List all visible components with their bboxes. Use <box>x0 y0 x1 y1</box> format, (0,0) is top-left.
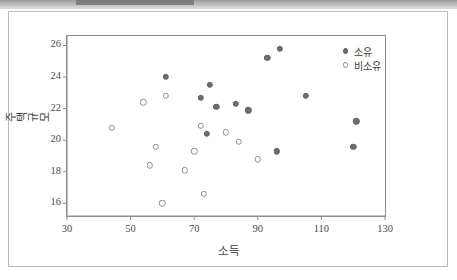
legend-label-owned: 소유 <box>354 44 372 59</box>
x-axis-tick-label: 70 <box>174 223 214 234</box>
y-axis-tick-label: 26 <box>33 38 61 49</box>
scan-top-strip-edge <box>0 7 457 9</box>
x-axis-tick-label: 30 <box>47 223 87 234</box>
x-axis-tick-label: 90 <box>238 223 278 234</box>
x-axis-tick-label: 130 <box>365 223 405 234</box>
y-axis-tick-label: 20 <box>33 133 61 144</box>
legend-item-owned[interactable]: 소유 <box>340 45 381 57</box>
legend-item-not-owned[interactable]: 비소유 <box>340 59 381 71</box>
x-axis-title: 소득 <box>0 242 457 258</box>
filled-circle-icon <box>340 48 351 54</box>
y-axis-tick-label: 22 <box>33 102 61 113</box>
legend-label-not-owned: 비소유 <box>354 58 381 73</box>
open-circle-icon <box>340 62 351 68</box>
scan-top-strip-tab <box>76 0 194 5</box>
chart-legend: 소유 비소유 <box>340 45 381 73</box>
x-axis-tick-label: 50 <box>111 223 151 234</box>
x-axis-tick-label: 110 <box>301 223 341 234</box>
y-axis-tick-label: 18 <box>33 165 61 176</box>
y-axis-tick-label: 16 <box>33 196 61 207</box>
y-axis-tick-label: 24 <box>33 70 61 81</box>
